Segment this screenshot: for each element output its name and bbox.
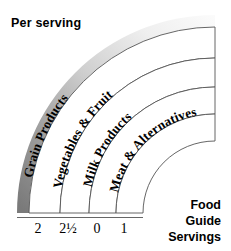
food-guide-rainbow-figure: Per serving xyxy=(0,0,231,251)
footer-line-food: Food xyxy=(168,197,221,213)
footer-caption: Food Guide Servings xyxy=(168,197,221,245)
serving-value-milk-products: 0 xyxy=(94,221,101,237)
footer-line-servings: Servings xyxy=(168,229,221,245)
footer-line-guide: Guide xyxy=(168,213,221,229)
serving-value-vegetables-fruit: 2½ xyxy=(59,221,77,237)
serving-value-meat-alternatives: 1 xyxy=(121,221,128,237)
serving-value-grain-products: 2 xyxy=(35,221,42,237)
